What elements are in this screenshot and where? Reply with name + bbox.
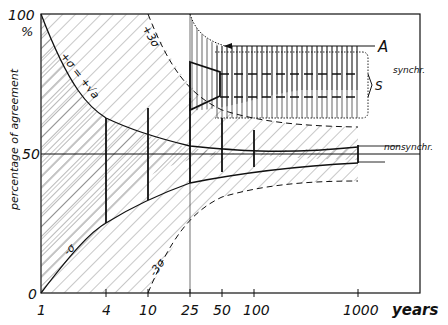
- x-tick-1: 1: [37, 302, 46, 318]
- x-tick-4: 4: [102, 302, 111, 318]
- chart: 100 % 50 0 percentage of agreement 1 4 1…: [0, 0, 448, 325]
- x-tick-10: 10: [139, 302, 157, 318]
- label-A: A: [377, 38, 388, 56]
- x-tick-50: 50: [213, 302, 231, 318]
- label-nonsynchr: nonsynchr.: [384, 142, 433, 152]
- x-tick-25: 25: [181, 302, 199, 318]
- x-tick-1000: 1000: [343, 302, 379, 318]
- x-tick-100: 100: [243, 302, 270, 318]
- y-tick-0: 0: [28, 286, 37, 302]
- label-S: S: [375, 79, 383, 93]
- y-tick-50: 50: [22, 146, 40, 162]
- y-unit: %: [21, 24, 33, 39]
- y-axis-label: percentage of agreement: [8, 68, 21, 211]
- label-synchr: synchr.: [393, 65, 425, 75]
- x-axis-label: years: [392, 301, 438, 319]
- y-tick-100: 100: [8, 7, 35, 23]
